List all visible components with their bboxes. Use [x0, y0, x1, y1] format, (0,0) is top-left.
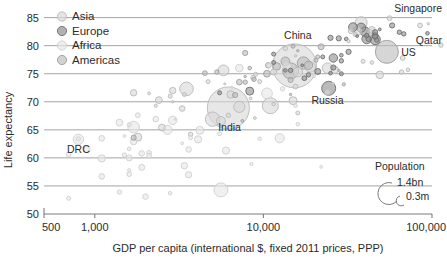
bubble-chart: 5055606570758085 5001,00010,000100,000 C… [0, 0, 447, 258]
data-bubble [174, 118, 176, 120]
data-bubble [127, 172, 132, 177]
data-bubble [222, 147, 229, 154]
chart-page: 5055606570758085 5001,00010,000100,000 C… [0, 0, 447, 258]
population-legend-small-label: 0.3m [406, 190, 430, 202]
data-bubble [185, 172, 191, 178]
data-bubble [271, 69, 277, 75]
bubble-series [66, 16, 443, 201]
data-bubble [296, 122, 300, 126]
data-bubble [189, 136, 193, 140]
legend-label-africa: Africa [72, 39, 102, 51]
data-bubble [234, 101, 245, 112]
data-bubble [243, 80, 247, 84]
data-bubble [302, 76, 307, 81]
data-bubble [314, 58, 318, 62]
data-bubble [130, 90, 136, 96]
data-bubble [272, 52, 276, 56]
data-bubble [117, 190, 121, 194]
data-bubble [361, 59, 365, 63]
data-bubble [139, 164, 145, 170]
data-bubble [376, 71, 384, 79]
data-bubble [347, 40, 350, 43]
data-bubble [194, 136, 201, 143]
data-bubble [288, 77, 293, 82]
data-bubble [154, 104, 157, 107]
data-bubble [243, 50, 248, 55]
data-bubble [203, 71, 208, 76]
annotation-qatar: Qatar [416, 34, 443, 46]
annotation-russia: Russia [311, 94, 343, 106]
y-axis-tick-labels: 5055606570758085 [27, 12, 39, 220]
data-bubble [139, 151, 145, 157]
data-bubble [427, 23, 429, 25]
data-bubble [99, 135, 105, 141]
data-bubble [280, 87, 284, 91]
data-bubble [148, 92, 151, 95]
data-bubble [218, 91, 222, 95]
data-bubble [329, 54, 337, 62]
data-bubble [244, 75, 246, 77]
data-bubble [181, 163, 187, 169]
data-bubble [336, 36, 341, 41]
x-tick-label: 1,000 [81, 221, 109, 233]
annotation-drc: DRC [67, 143, 90, 155]
legend-swatch-europe [57, 26, 66, 35]
data-bubble [315, 68, 321, 74]
data-bubble [250, 162, 253, 165]
data-bubble [339, 72, 343, 76]
y-tick-label: 85 [27, 12, 39, 24]
region-legend: AsiaEuropeAfricaAmericas [57, 10, 120, 66]
data-bubble [418, 23, 423, 28]
data-bubble [236, 64, 244, 72]
data-bubble [304, 61, 312, 69]
legend-label-asia: Asia [72, 10, 95, 22]
legend-swatch-americas [57, 55, 66, 64]
population-legend-small-arc [396, 196, 404, 206]
population-legend-title: Population [375, 160, 425, 172]
data-bubble [390, 23, 395, 28]
data-bubble [313, 74, 316, 77]
data-bubble [284, 69, 288, 73]
y-tick-label: 75 [27, 68, 39, 80]
data-bubble [289, 93, 291, 95]
data-bubble [320, 165, 323, 168]
data-bubble [296, 111, 300, 115]
data-bubble [131, 135, 136, 140]
data-bubble [135, 113, 140, 118]
data-bubble [378, 28, 381, 31]
data-bubble [370, 61, 374, 65]
data-bubble [233, 92, 238, 97]
data-bubble [275, 134, 284, 143]
annotation-us: US [401, 46, 416, 58]
data-bubble [127, 147, 131, 151]
data-bubble [306, 73, 310, 77]
data-bubble [346, 49, 351, 54]
data-bubble [215, 70, 219, 74]
annotation-singapore: Singapore [394, 2, 442, 14]
data-bubble [196, 126, 204, 134]
data-bubble [168, 191, 172, 195]
data-bubble [127, 123, 131, 127]
data-bubble [301, 64, 304, 67]
data-bubble [328, 35, 333, 40]
data-bubble [182, 92, 186, 96]
data-bubble [241, 119, 244, 122]
legend-label-americas: Americas [72, 54, 120, 66]
legend-swatch-africa [57, 41, 66, 50]
data-bubble [98, 155, 105, 162]
data-bubble [294, 55, 296, 57]
data-bubble [214, 183, 228, 197]
data-bubble [231, 86, 233, 88]
data-bubble [399, 70, 403, 74]
data-bubble [289, 97, 297, 105]
data-bubble [153, 116, 159, 122]
data-bubble [248, 66, 252, 70]
annotation-india: India [218, 121, 241, 133]
annotation-china: China [284, 29, 312, 41]
data-bubble [272, 61, 276, 65]
data-bubble [356, 35, 359, 38]
data-bubble [254, 72, 258, 76]
data-bubble [206, 80, 210, 84]
data-bubble [126, 155, 132, 161]
data-bubble [267, 63, 272, 68]
